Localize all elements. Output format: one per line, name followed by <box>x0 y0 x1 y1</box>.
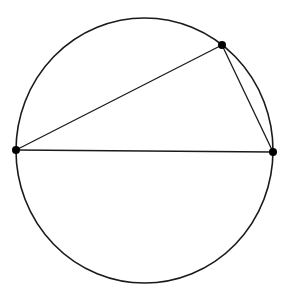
long-chord-segment <box>16 45 222 150</box>
left-point <box>12 146 20 154</box>
diameter-segment <box>16 150 273 152</box>
circle-triangle-diagram <box>0 0 292 298</box>
top-point <box>218 41 226 49</box>
short-chord-segment <box>222 45 273 152</box>
right-point <box>269 148 277 156</box>
